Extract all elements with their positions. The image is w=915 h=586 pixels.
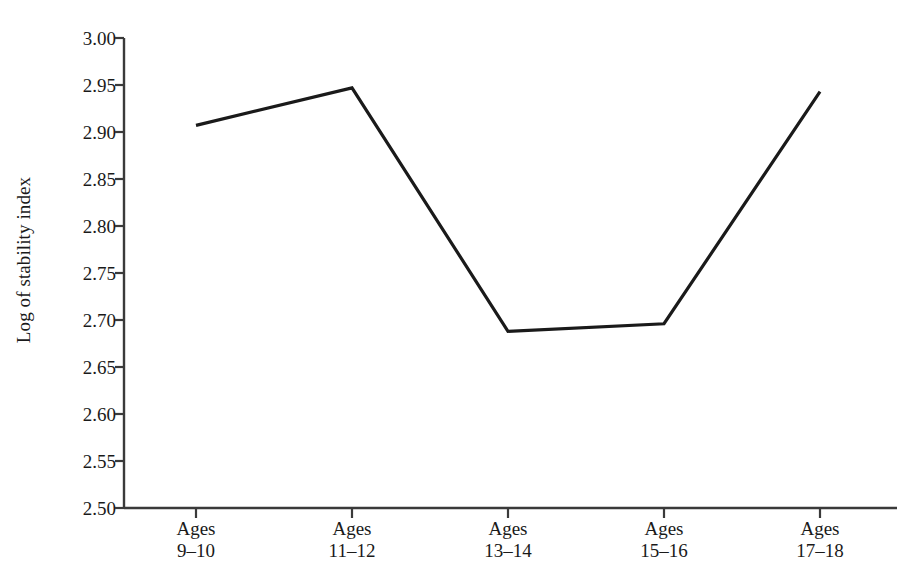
axis-spines <box>124 38 897 508</box>
plot-area <box>0 0 915 586</box>
data-series-line <box>196 88 820 331</box>
x-axis-ticks <box>196 508 820 518</box>
y-axis-ticks <box>115 38 124 508</box>
line-chart-figure: Log of stability index 3.00 2.95 2.90 2.… <box>0 0 915 586</box>
